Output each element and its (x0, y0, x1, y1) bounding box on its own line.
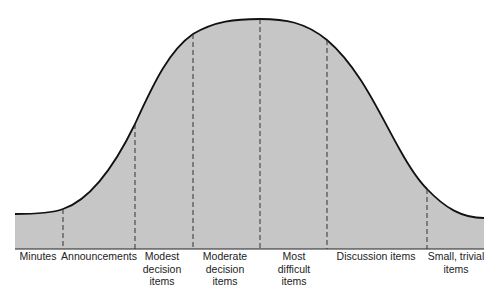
segment-label-minutes: Minutes (20, 250, 57, 263)
label-line: Discussion items (337, 250, 416, 263)
label-line: items (143, 275, 182, 288)
label-line: Moderate (203, 250, 247, 263)
curve-area-fill (15, 19, 484, 249)
label-line: Minutes (20, 250, 57, 263)
segment-label-small-trivial-items: Small, trivial items (428, 250, 485, 275)
label-line: Most (278, 250, 311, 263)
segment-label-announcements: Announcements (61, 250, 137, 263)
label-line: items (203, 275, 247, 288)
label-line: Small, trivial (428, 250, 485, 263)
label-line: Announcements (61, 250, 137, 263)
label-line: Modest (143, 250, 182, 263)
label-line: decision (143, 263, 182, 276)
label-line: difficult (278, 263, 311, 276)
label-line: decision (203, 263, 247, 276)
segment-label-moderate-decision-items: Moderate decision items (203, 250, 247, 288)
label-line: items (428, 263, 485, 276)
segment-label-discussion-items: Discussion items (337, 250, 416, 263)
segment-label-most-difficult-items: Most difficult items (278, 250, 311, 288)
label-line: items (278, 275, 311, 288)
segment-label-modest-decision-items: Modest decision items (143, 250, 182, 288)
